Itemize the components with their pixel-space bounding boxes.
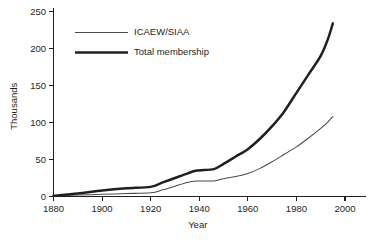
x-tick-label: 1980 (286, 203, 307, 214)
y-tick-label: 150 (30, 80, 46, 91)
axis-layer: 0501001502002501880190019201940196019802… (30, 6, 366, 214)
x-tick-label: 1920 (140, 203, 161, 214)
y-tick-label: 0 (41, 191, 46, 202)
x-tick-label: 1880 (43, 203, 64, 214)
legend-label-1: ICAEW/SIAA (134, 26, 190, 37)
x-tick-label: 1900 (92, 203, 113, 214)
legend-layer: ICAEW/SIAATotal membership (75, 26, 209, 57)
y-axis-title: Thousands (8, 83, 19, 130)
y-tick-label: 50 (35, 154, 46, 165)
x-tick-label: 1960 (237, 203, 258, 214)
x-tick-label: 1940 (189, 203, 210, 214)
chart-figure: 0501001502002501880190019201940196019802… (0, 0, 376, 243)
legend-label-2: Total membership (134, 46, 209, 57)
x-tick-label: 2000 (334, 203, 355, 214)
y-tick-label: 200 (30, 43, 46, 54)
line-chart: 0501001502002501880190019201940196019802… (0, 0, 376, 243)
series-line-1: ICAEW/SIAA (54, 117, 333, 196)
y-tick-label: 100 (30, 117, 46, 128)
x-axis-title: Year (188, 219, 207, 230)
y-tick-label: 250 (30, 6, 46, 17)
